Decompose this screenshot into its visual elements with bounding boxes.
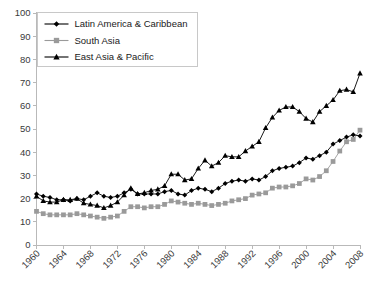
y-tick-label: 10 <box>20 216 31 227</box>
data-point-square <box>196 201 201 206</box>
data-point-square <box>34 209 39 214</box>
data-point-square <box>358 128 363 133</box>
data-point-triangle <box>297 109 303 114</box>
data-point-square <box>230 199 235 204</box>
y-tick-label: 0 <box>25 239 30 250</box>
data-point-square <box>297 181 302 186</box>
x-tick-label: 1984 <box>181 248 204 271</box>
data-point-square <box>95 215 100 220</box>
x-tick-label: 1976 <box>127 248 150 271</box>
data-point-square <box>257 192 262 197</box>
data-point-diamond <box>229 179 234 184</box>
data-point-square <box>122 209 127 214</box>
data-point-square <box>54 212 59 217</box>
data-point-diamond <box>209 189 214 194</box>
data-point-square <box>331 159 336 164</box>
data-point-square <box>351 137 356 142</box>
data-point-triangle <box>189 176 195 181</box>
data-point-triangle <box>81 200 87 205</box>
legend-label: East Asia & Pacific <box>75 51 154 62</box>
data-point-square <box>102 216 107 221</box>
data-point-diamond <box>344 135 349 140</box>
data-point-square <box>223 201 228 206</box>
data-point-square <box>81 212 86 217</box>
x-tick-label: 2008 <box>343 248 366 271</box>
data-point-square <box>216 202 221 207</box>
x-tick-label: 1972 <box>100 248 123 271</box>
x-tick-label: 1968 <box>73 248 96 271</box>
data-point-diamond <box>236 178 241 183</box>
data-point-square <box>337 149 342 154</box>
data-point-square <box>209 203 214 208</box>
data-point-square <box>250 193 255 198</box>
y-tick-label: 30 <box>20 170 31 181</box>
data-point-diamond <box>310 157 315 162</box>
data-point-diamond <box>243 179 248 184</box>
data-point-triangle <box>128 185 134 190</box>
data-point-diamond <box>95 190 100 195</box>
data-point-square <box>176 200 181 205</box>
data-point-square <box>277 185 282 190</box>
y-tick-label: 60 <box>20 100 31 111</box>
data-point-triangle <box>108 203 114 208</box>
data-point-diamond <box>304 156 309 161</box>
data-point-square <box>54 38 59 43</box>
data-point-triangle <box>155 186 161 191</box>
data-point-triangle <box>357 70 363 75</box>
data-point-square <box>243 196 248 201</box>
y-tick-label: 80 <box>20 54 31 65</box>
data-point-diamond <box>108 195 113 200</box>
data-point-square <box>203 202 208 207</box>
data-point-diamond <box>202 187 207 192</box>
x-tick-label: 1964 <box>46 248 69 271</box>
x-tick-label: 1980 <box>154 248 177 271</box>
data-point-square <box>149 204 154 209</box>
data-point-diamond <box>115 194 120 199</box>
x-tick-label: 1992 <box>235 248 258 271</box>
data-point-square <box>189 202 194 207</box>
legend-label: Latin America & Caribbean <box>75 18 188 29</box>
legend-label: South Asia <box>75 35 121 46</box>
line-chart: 0102030405060708090100196019641968197219… <box>0 0 371 294</box>
data-point-diamond <box>250 176 255 181</box>
data-point-diamond <box>277 166 282 171</box>
data-point-diamond <box>337 138 342 143</box>
y-tick-label: 90 <box>20 31 31 42</box>
data-point-square <box>263 190 268 195</box>
x-tick-label: 2004 <box>316 248 339 271</box>
y-tick-label: 70 <box>20 77 31 88</box>
data-point-triangle <box>40 198 46 203</box>
data-point-triangle <box>249 143 255 148</box>
data-point-diamond <box>88 194 93 199</box>
data-point-square <box>182 201 187 206</box>
data-point-square <box>304 177 309 182</box>
data-point-diamond <box>290 164 295 169</box>
data-point-triangle <box>344 87 350 92</box>
data-point-square <box>135 204 140 209</box>
data-point-square <box>270 186 275 191</box>
data-point-square <box>61 212 66 217</box>
chart-canvas: 0102030405060708090100196019641968197219… <box>0 0 371 294</box>
data-point-square <box>48 212 53 217</box>
data-point-square <box>142 206 147 211</box>
data-point-square <box>75 211 80 216</box>
data-point-diamond <box>101 194 106 199</box>
data-point-diamond <box>358 133 363 138</box>
y-tick-label: 100 <box>15 7 31 18</box>
data-point-diamond <box>317 153 322 158</box>
data-point-square <box>88 214 93 219</box>
data-point-square <box>344 139 349 144</box>
data-point-triangle <box>243 148 249 153</box>
data-point-square <box>310 178 315 183</box>
data-point-diamond <box>162 189 167 194</box>
y-tick-label: 40 <box>20 147 31 158</box>
data-point-triangle <box>222 153 228 158</box>
data-point-diamond <box>176 191 181 196</box>
data-point-square <box>290 183 295 188</box>
data-point-diamond <box>196 186 201 191</box>
data-point-triangle <box>276 107 282 112</box>
data-point-triangle <box>256 139 262 144</box>
x-tick-label: 1996 <box>262 248 285 271</box>
data-point-square <box>283 185 288 190</box>
data-point-square <box>236 197 241 202</box>
